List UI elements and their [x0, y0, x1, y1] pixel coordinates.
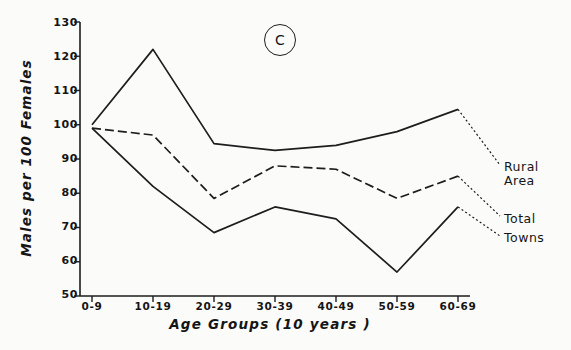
data-series-group: [92, 49, 458, 272]
chart-figure: Males per 100 Females Age Groups (10 yea…: [0, 0, 571, 350]
series-label-towns: Towns: [504, 231, 544, 245]
panel-label-c: C: [264, 24, 296, 56]
series-label-rural-area: Rural Area: [504, 160, 539, 188]
leader-line-rural-area: [458, 109, 500, 165]
series-line-rural-area: [92, 49, 458, 150]
series-line-total: [92, 128, 458, 198]
x-tick-marks: [92, 296, 458, 302]
label-leader-lines: [458, 109, 500, 236]
series-label-rural-line2: Area: [504, 174, 539, 188]
y-tick-marks: [74, 22, 80, 296]
series-label-total: Total: [504, 212, 536, 226]
leader-line-towns: [458, 207, 500, 236]
leader-line-total: [458, 176, 500, 216]
axis-lines: [74, 22, 470, 302]
series-label-rural-line1: Rural: [504, 160, 539, 174]
